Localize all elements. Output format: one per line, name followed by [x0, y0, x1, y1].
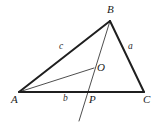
side-label-b: b	[63, 94, 68, 104]
point-label-o: O	[97, 62, 105, 73]
vertex-label-a: A	[11, 94, 18, 105]
figure-background	[0, 0, 157, 127]
vertex-label-b: B	[107, 4, 114, 15]
side-label-a: a	[128, 42, 133, 52]
point-label-p: P	[89, 94, 96, 105]
geometry-figure: A B C O P c a b	[0, 0, 157, 127]
side-label-c: c	[59, 42, 63, 52]
vertex-label-c: C	[143, 94, 150, 105]
figure-canvas	[0, 0, 157, 127]
